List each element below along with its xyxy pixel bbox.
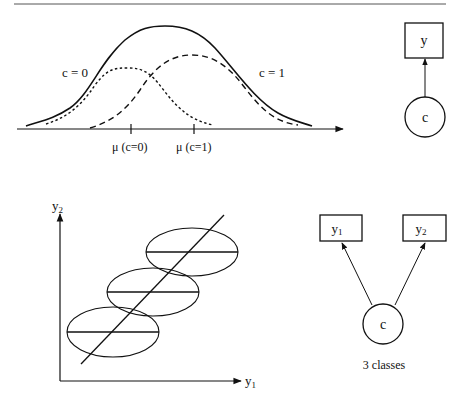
y1-axis-label: y1	[245, 373, 256, 390]
bottom-path-diagram: y1 y2 c 3 classes	[320, 215, 446, 372]
latent-class-scatter: y2 y1	[52, 198, 256, 390]
tick-label-mu-c1: μ (c=1)	[176, 140, 212, 154]
edge-c-to-y2	[395, 243, 425, 305]
y2-axis-label: y2	[52, 198, 63, 215]
label-c0: c = 0	[62, 65, 88, 80]
top-path-diagram: y c	[405, 23, 445, 137]
latent-node-c-label: c	[422, 110, 428, 125]
edge-c-to-y1	[342, 243, 372, 305]
observed-node-y-label: y	[421, 33, 428, 48]
label-c1: c = 1	[259, 65, 285, 80]
latent-node-c-label: c	[380, 317, 386, 332]
tick-label-mu-c0: μ (c=0)	[112, 140, 148, 154]
mixture-density-plot: c = 0 c = 1 μ (c=0) μ (c=1)	[17, 26, 343, 154]
overall-trend-line	[81, 215, 224, 364]
diagram-canvas: c = 0 c = 1 μ (c=0) μ (c=1) y c y2 y1	[0, 0, 461, 402]
class-count-caption: 3 classes	[363, 358, 406, 372]
